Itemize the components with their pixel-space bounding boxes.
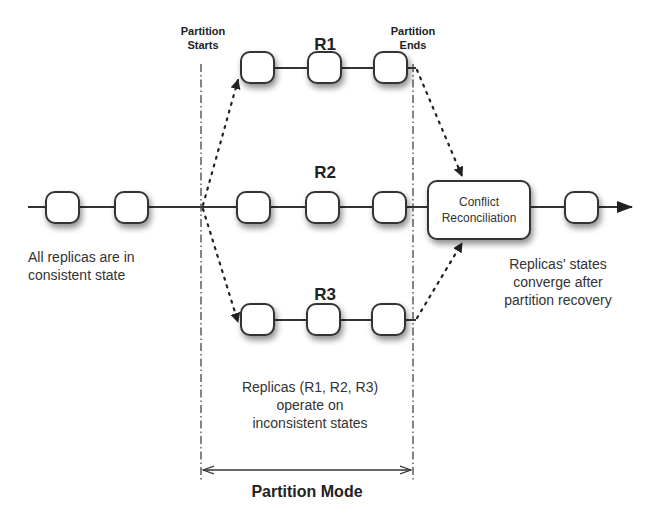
note-left-line2: consistent state xyxy=(28,266,135,284)
partition-ends-label: Partition Ends xyxy=(390,24,436,52)
replica-label-r3: R3 xyxy=(305,285,345,305)
state-box-r3-2 xyxy=(306,303,341,336)
note-right-line1: Replicas' states xyxy=(478,255,638,273)
state-box-r1-3 xyxy=(373,51,408,84)
note-middle-line2: operate on xyxy=(215,396,405,414)
conflict-reconciliation-box: Conflict Reconciliation xyxy=(427,180,531,240)
state-box-r2-3 xyxy=(372,191,407,224)
note-converge: Replicas' states converge after partitio… xyxy=(478,255,638,309)
state-box-r2-1 xyxy=(236,191,271,224)
partition-starts-label: Partition Starts xyxy=(180,24,226,52)
reconciliation-line2: Reconciliation xyxy=(442,210,517,226)
note-middle-line3: inconsistent states xyxy=(215,414,405,432)
state-box-pre-2 xyxy=(114,191,149,224)
note-right-line3: partition recovery xyxy=(478,291,638,309)
state-box-r2-2 xyxy=(305,191,340,224)
merge-arrow-r3 xyxy=(417,243,462,318)
note-consistent-state: All replicas are in consistent state xyxy=(28,248,135,284)
partition-mode-label: Partition Mode xyxy=(207,483,407,501)
partition-ends-line1: Partition xyxy=(390,24,436,38)
fork-arrow-r3 xyxy=(203,209,238,322)
merge-arrow-r1 xyxy=(417,70,462,176)
state-box-r3-3 xyxy=(371,303,406,336)
replica-label-r2: R2 xyxy=(305,163,345,183)
note-inconsistent-states: Replicas (R1, R2, R3) operate on inconsi… xyxy=(215,378,405,432)
state-box-r3-1 xyxy=(240,303,275,336)
partition-ends-line2: Ends xyxy=(390,38,436,52)
reconciliation-line1: Conflict xyxy=(459,194,499,210)
state-box-post-1 xyxy=(564,191,599,224)
state-box-r1-2 xyxy=(307,51,342,84)
fork-arrow-r1 xyxy=(203,80,238,205)
partition-starts-line1: Partition xyxy=(180,24,226,38)
state-box-r1-1 xyxy=(240,51,275,84)
partition-diagram: Partition Starts Partition Ends R1 R2 R3… xyxy=(0,0,660,524)
note-left-line1: All replicas are in xyxy=(28,248,135,266)
note-right-line2: converge after xyxy=(478,273,638,291)
partition-starts-line2: Starts xyxy=(180,38,226,52)
note-middle-line1: Replicas (R1, R2, R3) xyxy=(215,378,405,396)
state-box-pre-1 xyxy=(45,191,80,224)
